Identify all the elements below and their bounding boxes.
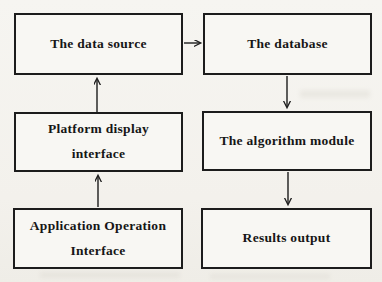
- node-results-output-label: Results output: [243, 226, 331, 251]
- node-results-output: Results output: [201, 208, 372, 269]
- scan-artifact: [300, 90, 370, 98]
- node-database: The database: [203, 13, 372, 75]
- node-data-source-label: The data source: [50, 32, 147, 57]
- node-data-source: The data source: [14, 13, 183, 75]
- node-application-operation-line-2: Interface: [70, 239, 125, 264]
- scan-artifact: [210, 274, 330, 279]
- node-platform-display-interface: Platform display interface: [14, 112, 183, 172]
- node-algorithm-module-label: The algorithm module: [219, 129, 354, 154]
- flowchart-canvas: The data source The database Platform di…: [0, 0, 382, 282]
- scan-artifact: [40, 272, 180, 278]
- node-application-operation-line-1: Application Operation: [30, 214, 166, 239]
- node-application-operation-interface: Application Operation Interface: [13, 208, 183, 269]
- node-algorithm-module: The algorithm module: [202, 111, 372, 171]
- node-platform-display-line-1: Platform display: [48, 117, 149, 142]
- node-database-label: The database: [247, 32, 328, 57]
- node-platform-display-line-2: interface: [72, 142, 126, 167]
